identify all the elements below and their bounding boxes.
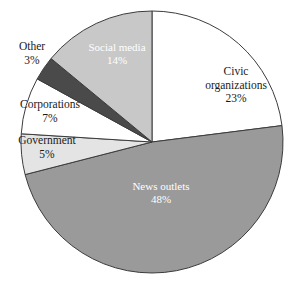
slice-label-government-line1: Government [2,134,92,148]
slice-value-other: 3% [2,54,62,68]
slice-value-news-outlets: 48% [106,193,216,206]
slice-label-corporations: Corporations 7% [6,98,94,125]
slice-label-news-outlets: News outlets 48% [106,180,216,206]
slice-label-social-media-line1: Social media [78,41,156,54]
slice-value-government: 5% [2,148,92,162]
pie-chart: Civic organizations 23% News outlets 48%… [0,0,293,282]
slice-label-civic-organizations: Civic organizations 23% [186,65,286,106]
slice-label-civic-organizations-line2: organizations [186,79,286,93]
slice-label-civic-organizations-line1: Civic [186,65,286,79]
slice-value-civic-organizations: 23% [186,92,286,106]
slice-value-social-media: 14% [78,54,156,67]
slice-label-corporations-line1: Corporations [6,98,94,112]
slice-label-news-outlets-line1: News outlets [106,180,216,193]
slice-label-other-line1: Other [2,40,62,54]
slice-label-other: Other 3% [2,40,62,67]
slice-label-social-media: Social media 14% [78,41,156,67]
slice-value-corporations: 7% [6,112,94,126]
slice-label-government: Government 5% [2,134,92,161]
